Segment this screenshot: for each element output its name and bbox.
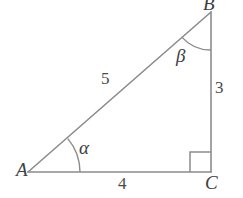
vertex-label-b: B (203, 0, 215, 13)
vertex-label-a: A (16, 160, 28, 179)
right-angle-marker (190, 152, 211, 172)
side-length-label-hypotenuse: 5 (101, 70, 110, 87)
side-length-label-adjacent: 4 (118, 175, 127, 192)
angle-label-alpha: α (79, 138, 89, 157)
triangle-figure: A B C 5 3 4 α β (0, 0, 243, 198)
triangle-drawing (0, 0, 243, 198)
side-hypotenuse-line (28, 12, 211, 172)
vertex-label-c: C (205, 173, 218, 192)
side-length-label-opposite: 3 (215, 79, 224, 96)
angle-arc-beta (182, 37, 211, 50)
angle-label-beta: β (176, 46, 185, 65)
